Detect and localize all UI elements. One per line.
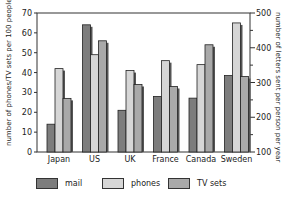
bar-tv-sets (99, 41, 107, 152)
x-tick-label: France (152, 155, 179, 164)
bar-mail (118, 110, 126, 152)
bar-chart: 010203040506070100200300400500JapanUSUKF… (0, 0, 287, 200)
bar-tv-sets (134, 84, 142, 152)
legend-item-tv-sets: TV sets (168, 177, 226, 189)
right-axis-title: number of letters sent per person per ye… (274, 12, 282, 162)
x-tick-label: Sweden (221, 155, 253, 164)
bar-phones (233, 23, 241, 152)
right-tick-label: 100 (256, 148, 271, 157)
left-tick-label: 10 (22, 128, 32, 137)
right-tick-label: 200 (256, 113, 271, 122)
left-tick-label: 50 (22, 49, 32, 58)
left-tick-label: 70 (22, 9, 32, 18)
bar-phones (197, 65, 205, 152)
bar-tv-sets (241, 77, 249, 152)
right-tick-label: 300 (256, 79, 271, 88)
bar-tv-sets (170, 86, 178, 152)
left-axis-title: number of phones/TV sets per 100 people (5, 0, 13, 146)
x-tick-label: Canada (186, 155, 217, 164)
bar-mail (47, 124, 55, 152)
right-tick-label: 400 (256, 44, 271, 53)
legend-swatch-tv-sets (168, 178, 190, 189)
legend-label-mail: mail (65, 179, 82, 188)
bar-phones (162, 61, 170, 152)
left-tick-label: 0 (27, 148, 32, 157)
x-tick-label: UK (124, 155, 136, 164)
left-tick-label: 20 (22, 108, 32, 117)
legend-swatch-phones (102, 178, 124, 189)
legend-label-tv-sets: TV sets (197, 179, 226, 188)
left-tick-label: 60 (22, 29, 32, 38)
right-tick-label: 500 (256, 9, 271, 18)
bar-mail (189, 98, 197, 152)
x-tick-label: Japan (47, 155, 70, 164)
bar-mail (83, 25, 91, 152)
legend-swatch-mail (36, 178, 58, 189)
x-tick-label: US (89, 155, 100, 164)
bar-phones (126, 71, 134, 152)
left-tick-label: 30 (22, 88, 32, 97)
bar-mail (154, 96, 162, 152)
bar-mail (225, 76, 233, 152)
bar-tv-sets (205, 45, 213, 152)
left-tick-label: 40 (22, 69, 32, 78)
bar-tv-sets (63, 98, 71, 152)
bar-phones (91, 55, 99, 152)
bar-phones (55, 69, 63, 152)
legend-item-mail: mail (36, 177, 82, 189)
legend-item-phones: phones (102, 177, 160, 189)
legend-label-phones: phones (131, 179, 160, 188)
